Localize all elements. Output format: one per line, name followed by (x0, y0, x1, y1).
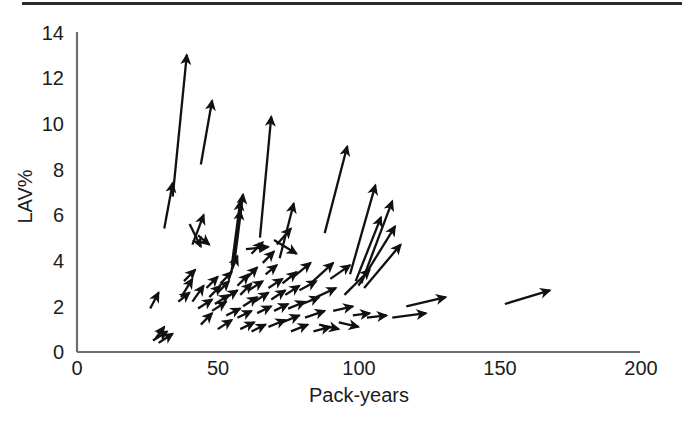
arrow-vector (339, 322, 359, 327)
x-tick-label-50: 50 (188, 357, 248, 380)
arrow-vector (361, 201, 392, 283)
y-tick-label-2: 2 (24, 296, 64, 319)
arrow-vector (246, 267, 257, 278)
arrow-vector (313, 327, 330, 332)
arrow-vector (184, 270, 195, 281)
arrow-vector (505, 290, 550, 304)
x-tick-label-100: 100 (329, 357, 389, 380)
arrow-vector (263, 251, 274, 262)
arrow-vector (240, 322, 254, 329)
arrow-vector (271, 290, 285, 299)
arrow-vector (353, 313, 370, 315)
arrow-vector (198, 299, 212, 308)
arrow-vector (333, 306, 353, 311)
x-tick-label-0: 0 (47, 357, 107, 380)
arrow-vector (223, 290, 237, 299)
arrow-vector (201, 101, 212, 165)
arrow-vector (252, 325, 266, 332)
arrow-vector (260, 117, 271, 238)
arrow-vector (274, 304, 288, 311)
arrow-vector (266, 265, 277, 274)
y-axis-title: LAV% (14, 137, 37, 257)
arrow-vector (268, 279, 282, 288)
arrow-vector (164, 183, 172, 229)
arrow-vector (311, 263, 334, 284)
arrow-vector (206, 277, 217, 288)
arrow-vector (302, 297, 319, 304)
arrow-vector (173, 55, 187, 197)
arrow-vector (392, 313, 426, 318)
arrow-vector (257, 306, 271, 313)
arrow-vector (201, 313, 212, 324)
x-tick-label-200: 200 (611, 357, 671, 380)
arrow-vector (274, 240, 297, 254)
figure-container: 14 12 10 8 6 4 2 0 0 50 100 150 200 Pack… (0, 0, 682, 424)
y-tick-label-12: 12 (24, 67, 64, 90)
arrow-vector (305, 311, 325, 318)
arrow-vector (283, 272, 297, 283)
arrow-vector (316, 288, 336, 297)
arrow-vector (237, 311, 251, 318)
arrow-vector (330, 265, 350, 279)
arrow-vector (325, 146, 348, 233)
arrow-vector-layer (150, 55, 550, 343)
arrow-vector (294, 263, 311, 277)
plot-axes (77, 32, 640, 352)
arrow-vector (283, 315, 300, 322)
arrow-vector (367, 315, 387, 317)
arrow-vector (246, 247, 269, 249)
arrow-vector (226, 309, 240, 316)
arrow-vector (150, 293, 158, 309)
arrow-vector (285, 286, 299, 295)
arrow-vector (299, 281, 316, 290)
x-axis-title: Pack-years (239, 384, 479, 407)
arrow-vector (218, 320, 232, 329)
arrow-vector (291, 325, 308, 332)
x-tick-label-150: 150 (470, 357, 530, 380)
y-tick-label-14: 14 (24, 22, 64, 45)
arrow-vector (212, 302, 226, 311)
arrow-vector (406, 297, 445, 306)
arrow-vector (192, 286, 203, 302)
arrow-vector (237, 274, 248, 285)
y-tick-label-10: 10 (24, 113, 64, 136)
